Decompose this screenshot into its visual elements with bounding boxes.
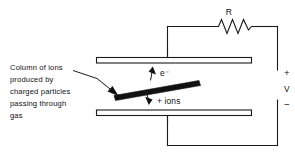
ionization-chamber-figure: R + V − e⁻ + ions Column of ions produce… [0,0,295,160]
caption-line-5: gas [10,111,23,120]
resistor-zigzag [214,20,256,34]
positive-terminal-label: + [284,67,290,78]
caption-line-4: passing through [10,99,66,108]
top-electrode-plate [97,58,252,64]
voltage-source-label: V [284,84,290,94]
bottom-electrode-plate [97,110,252,116]
positive-ions-label: + ions [157,96,180,106]
caption-pointer-arrow [108,86,119,96]
caption-line-3: charged particles [10,87,70,96]
ion-arrow-head [145,97,152,105]
resistor-label: R [226,7,232,17]
caption-line-2: produced by [10,75,53,84]
electron-label: e⁻ [160,68,169,78]
caption-line-1: Column of ions [10,63,63,72]
negative-terminal-label: − [284,99,290,110]
circuit-diagram-canvas: R + V − e⁻ + ions Column of ions produce… [0,0,295,160]
caption-pointer-line [73,71,115,94]
